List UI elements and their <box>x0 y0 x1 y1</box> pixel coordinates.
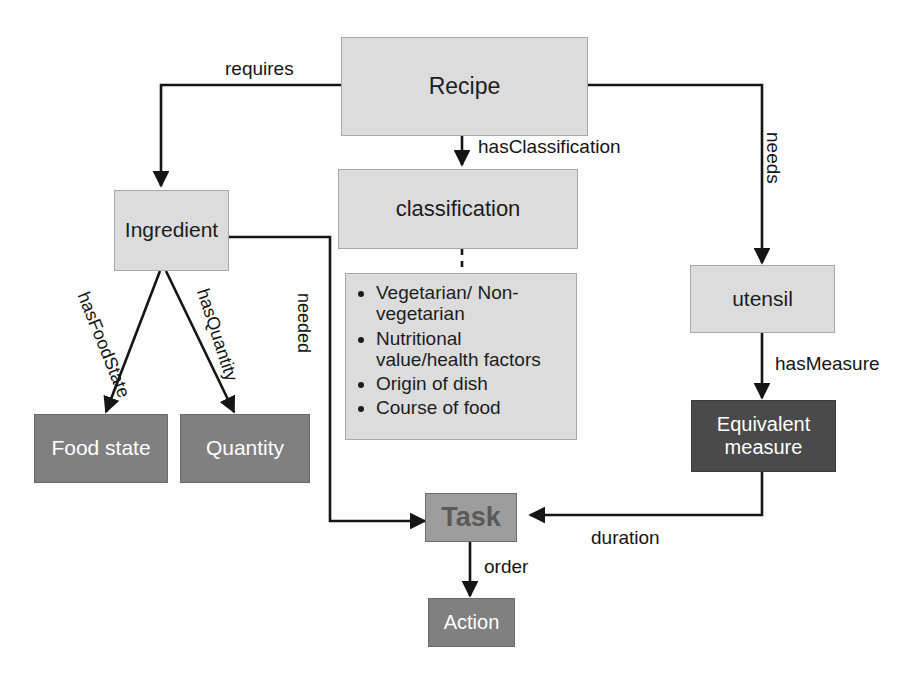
node-classification-details[interactable]: Vegetarian/ Non-vegetarian Nutritional v… <box>345 273 577 440</box>
node-classification[interactable]: classification <box>338 169 578 249</box>
edge-label-needed: needed <box>293 293 314 353</box>
node-food-state-label: Food state <box>51 436 150 460</box>
list-item: Vegetarian/ Non-vegetarian <box>376 282 566 325</box>
node-recipe[interactable]: Recipe <box>341 37 588 136</box>
edge-label-order: order <box>484 556 528 578</box>
node-quantity[interactable]: Quantity <box>180 414 310 483</box>
node-classification-label: classification <box>396 196 521 221</box>
node-food-state[interactable]: Food state <box>34 414 168 483</box>
node-recipe-label: Recipe <box>429 73 501 99</box>
node-task-label: Task <box>441 502 501 533</box>
node-task[interactable]: Task <box>425 493 517 542</box>
edge-label-has-food-state: hasFoodState <box>73 289 134 401</box>
edge-label-has-classification: hasClassification <box>478 136 621 158</box>
node-ingredient-label: Ingredient <box>125 218 218 242</box>
edge-label-has-measure: hasMeasure <box>775 353 880 375</box>
edge-label-requires: requires <box>225 58 294 80</box>
edge-requires <box>161 85 341 186</box>
node-utensil-label: utensil <box>732 287 793 311</box>
node-ingredient[interactable]: Ingredient <box>114 190 229 271</box>
node-action-label: Action <box>444 611 500 634</box>
edge-needs <box>588 85 762 263</box>
diagram-canvas: Recipe Ingredient classification Vegetar… <box>0 0 916 679</box>
classification-detail-list: Vegetarian/ Non-vegetarian Nutritional v… <box>350 282 566 419</box>
edge-label-needs: needs <box>762 132 784 184</box>
node-equivalent-measure-label: Equivalent measure <box>692 413 835 459</box>
list-item: Nutritional value/health factors <box>376 328 566 371</box>
edge-label-duration: duration <box>591 527 660 549</box>
node-quantity-label: Quantity <box>206 436 284 460</box>
edge-duration <box>530 472 762 515</box>
edge-label-has-quantity: hasQuantity <box>192 286 242 384</box>
node-utensil[interactable]: utensil <box>690 265 835 333</box>
node-equivalent-measure[interactable]: Equivalent measure <box>691 400 836 472</box>
node-action[interactable]: Action <box>428 598 515 647</box>
list-item: Origin of dish <box>376 373 566 394</box>
list-item: Course of food <box>376 397 566 418</box>
